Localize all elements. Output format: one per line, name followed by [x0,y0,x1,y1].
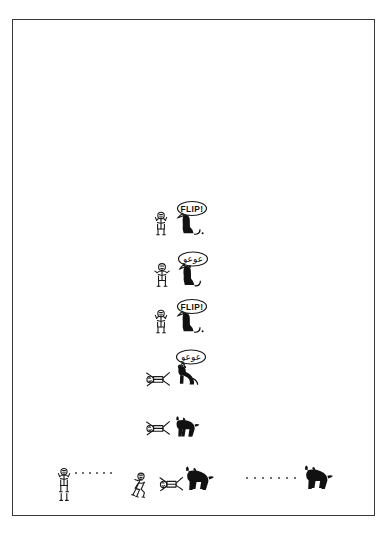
panel-4-bubble-label: عوعو [180,352,201,362]
person-legs [158,327,164,333]
dog-ground-dot [202,330,204,332]
person-head [159,264,166,271]
panel-1-art: FLIP! [152,200,222,244]
speech-bubble-4: عوعو [177,350,206,367]
speech-bubble-3: FLIP! [178,300,207,316]
dog-walking-away [176,416,199,436]
panel-command-flip-2: FLIP! [152,298,222,342]
panel-command-flip-1: FLIP! [152,200,222,244]
panel-dog-walks-away [142,412,224,446]
comic-page: FLIP! [0,0,389,533]
person-legs [158,229,164,235]
person-fallen [147,373,170,386]
panel-2-art: عوعو [152,250,222,294]
speech-bubble-1: FLIP! [178,202,207,218]
dog-sitting [183,311,201,333]
dog-barking [183,264,201,286]
dog-trotting [186,467,214,490]
person-stage-fallen [160,477,183,490]
panel-3-art: FLIP! [152,298,222,342]
panel-5-art [142,412,224,446]
motion-trail-right [246,477,296,479]
dog-sitting [183,213,201,235]
panel-person-flips: عوعو [142,348,224,394]
person-legs [159,281,166,287]
person-head [158,212,164,218]
speech-bubble-2: عوعو [179,252,208,269]
panel-dog-barks-1: عوعو [152,250,222,294]
dog-ground-dot [202,232,204,234]
dog-far-away [305,466,333,489]
dog-standing [178,365,198,385]
person-head [158,310,164,316]
person-lying [147,422,170,435]
panel-1-bubble-label: FLIP! [181,204,204,214]
person-stage-standing [58,469,69,501]
panel-2-bubble-label: عوعو [182,254,203,264]
panel-3-bubble-label: FLIP! [181,302,204,312]
panel-4-art: عوعو [142,348,224,394]
panel-final-sequence [45,460,360,508]
panel-6-art [45,460,360,508]
comic-stage: FLIP! [0,0,389,533]
person-stage-buckling [132,473,145,497]
motion-trail-left [75,472,112,474]
